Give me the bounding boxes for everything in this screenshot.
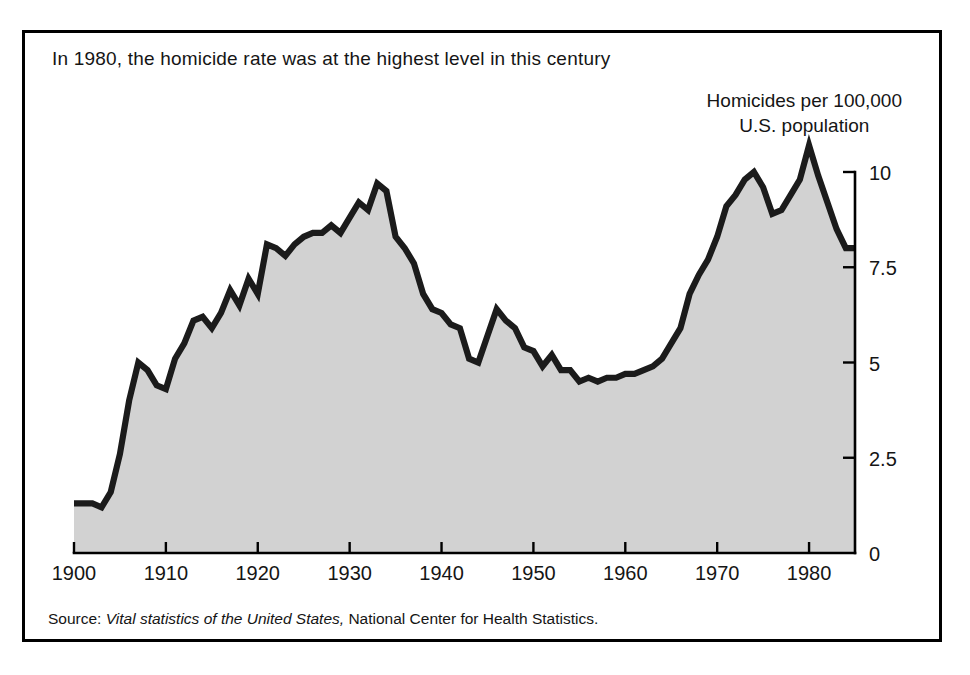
x-tick-label: 1950 — [511, 562, 556, 584]
area-series-group — [74, 145, 855, 553]
x-tick-label: 1960 — [603, 562, 648, 584]
x-tick-label: 1910 — [144, 562, 189, 584]
source-prefix: Source: — [48, 610, 101, 627]
chart-svg: 190019101920193019401950196019701980 02.… — [0, 0, 970, 675]
y-tick-label: 5 — [869, 353, 880, 375]
source-note: Source: Vital statistics of the United S… — [48, 610, 598, 628]
y-tick-label: 7.5 — [869, 257, 897, 279]
x-tick-label: 1940 — [419, 562, 464, 584]
x-tick-label: 1970 — [695, 562, 740, 584]
y-tick-label: 2.5 — [869, 448, 897, 470]
x-tick-label: 1920 — [236, 562, 281, 584]
x-tick-label: 1900 — [52, 562, 97, 584]
source-publisher: National Center for Health Statistics. — [348, 610, 598, 627]
y-tick-label: 10 — [869, 162, 891, 184]
x-tick-label: 1930 — [327, 562, 372, 584]
source-publication: Vital statistics of the United States, — [106, 610, 344, 627]
x-tick-label: 1980 — [787, 562, 832, 584]
y-tick-label: 0 — [869, 543, 880, 565]
plot-area: 190019101920193019401950196019701980 02.… — [0, 0, 970, 675]
figure-root: In 1980, the homicide rate was at the hi… — [0, 0, 970, 675]
